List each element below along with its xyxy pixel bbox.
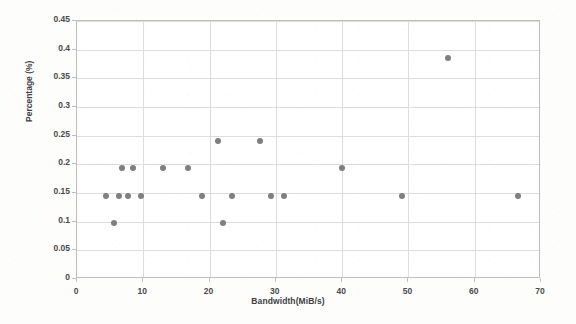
scatter-point (399, 193, 405, 199)
gridline-vertical (342, 21, 343, 277)
y-tick-mark (72, 221, 76, 222)
gridline-horizontal (77, 136, 539, 137)
x-tick-label: 20 (189, 286, 229, 296)
gridline-horizontal (77, 50, 539, 51)
gridline-horizontal (77, 164, 539, 165)
x-tick-label: 10 (122, 286, 162, 296)
y-tick-label: 0.4 (34, 43, 70, 53)
y-tick-label: 0.25 (34, 129, 70, 139)
x-tick-mark (540, 278, 541, 282)
gridline-horizontal (77, 250, 539, 251)
scatter-point (103, 193, 109, 199)
y-axis-title: Percentage (%) (24, 108, 34, 122)
y-tick-label: 0.05 (34, 243, 70, 253)
y-tick-mark (72, 20, 76, 21)
gridline-vertical (408, 21, 409, 277)
y-tick-mark (72, 49, 76, 50)
y-tick-mark (72, 135, 76, 136)
x-tick-label: 50 (387, 286, 427, 296)
gridline-horizontal (77, 107, 539, 108)
scatter-point (130, 165, 136, 171)
scatter-point (339, 165, 345, 171)
scatter-point (185, 165, 191, 171)
y-tick-label: 0.3 (34, 100, 70, 110)
x-tick-mark (76, 278, 77, 282)
x-tick-mark (209, 278, 210, 282)
scatter-point (281, 193, 287, 199)
scatter-point (138, 193, 144, 199)
x-tick-mark (474, 278, 475, 282)
y-tick-mark (72, 106, 76, 107)
x-axis-title: Bandwidth(MiB/s) (0, 296, 576, 306)
scatter-point (215, 138, 221, 144)
gridline-horizontal (77, 193, 539, 194)
y-tick-label: 0.2 (34, 157, 70, 167)
y-tick-mark (72, 192, 76, 193)
scatter-point (515, 193, 521, 199)
scatter-point (116, 193, 122, 199)
scatter-point (160, 165, 166, 171)
x-tick-label: 60 (454, 286, 494, 296)
scatter-point (199, 193, 205, 199)
gridline-horizontal (77, 78, 539, 79)
x-tick-mark (341, 278, 342, 282)
plot-area (76, 20, 540, 278)
scatter-point (229, 193, 235, 199)
gridline-vertical (143, 21, 144, 277)
gridline-vertical (475, 21, 476, 277)
y-tick-label: 0 (34, 272, 70, 282)
scatter-chart-figure: Percentage (%) Bandwidth(MiB/s) 00.050.1… (0, 0, 576, 324)
gridline-vertical (276, 21, 277, 277)
x-tick-label: 40 (321, 286, 361, 296)
scatter-point (111, 220, 117, 226)
y-tick-label: 0.1 (34, 215, 70, 225)
gridline-horizontal (77, 222, 539, 223)
y-tick-mark (72, 163, 76, 164)
scatter-point (445, 55, 451, 61)
x-tick-label: 70 (520, 286, 560, 296)
x-tick-mark (407, 278, 408, 282)
y-tick-mark (72, 249, 76, 250)
scatter-point (220, 220, 226, 226)
scatter-point (119, 165, 125, 171)
x-tick-label: 0 (56, 286, 96, 296)
scatter-point (257, 138, 263, 144)
x-tick-mark (142, 278, 143, 282)
y-tick-label: 0.35 (34, 71, 70, 81)
x-tick-mark (275, 278, 276, 282)
x-tick-label: 30 (255, 286, 295, 296)
scatter-point (268, 193, 274, 199)
scatter-point (125, 193, 131, 199)
y-tick-label: 0.45 (34, 14, 70, 24)
y-tick-mark (72, 77, 76, 78)
y-tick-label: 0.15 (34, 186, 70, 196)
gridline-horizontal (77, 21, 539, 22)
gridline-vertical (210, 21, 211, 277)
